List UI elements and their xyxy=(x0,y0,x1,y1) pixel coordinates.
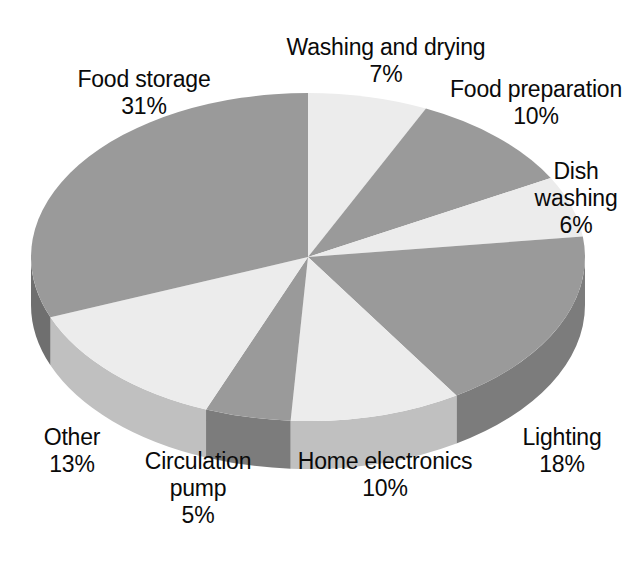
slice-label-name-line2: washing xyxy=(520,185,632,212)
slice-label-name-line1: Circulation xyxy=(145,448,251,474)
slice-label-percent: 13% xyxy=(14,451,130,478)
slice-label-percent: 18% xyxy=(494,451,630,478)
slice-label-lighting: Lighting 18% xyxy=(494,424,630,478)
slice-label-food-storage: Food storage 31% xyxy=(28,66,260,120)
slice-label-percent: 10% xyxy=(436,103,636,130)
slice-label-name: Home electronics xyxy=(298,448,472,474)
pie-top-face xyxy=(31,93,585,421)
slice-label-percent: 6% xyxy=(520,212,632,239)
slice-label-percent: 10% xyxy=(278,475,492,502)
slice-label-name-line1: Dish xyxy=(553,158,598,184)
slice-label-name: Food preparation xyxy=(450,76,622,102)
slice-label-name: Other xyxy=(44,424,101,450)
slice-label-food-preparation: Food preparation 10% xyxy=(436,76,636,130)
pie-chart: Washing and drying 7% Food storage 31% F… xyxy=(0,0,638,576)
slice-label-name: Washing and drying xyxy=(287,34,486,60)
slice-label-name-line2: pump xyxy=(116,475,280,502)
slice-label-name: Food storage xyxy=(77,66,210,92)
slice-label-dish-washing: Dish washing 6% xyxy=(520,158,632,239)
slice-label-home-electronics: Home electronics 10% xyxy=(278,448,492,502)
slice-label-circulation-pump: Circulation pump 5% xyxy=(116,448,280,529)
slice-label-percent: 5% xyxy=(116,502,280,529)
slice-label-other: Other 13% xyxy=(14,424,130,478)
slice-label-percent: 31% xyxy=(28,93,260,120)
slice-label-name: Lighting xyxy=(523,424,602,450)
